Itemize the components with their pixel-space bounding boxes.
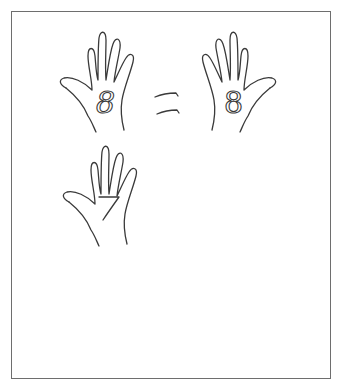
number-right-row-1: 8 [224,85,243,120]
equals-symbol-row-1 [155,93,179,114]
worksheet-drawing: 8 8 [0,0,344,389]
row-2 [63,146,136,246]
hand-left-row-2 [63,146,136,246]
number-left-row-2 [99,197,119,220]
row-1: 8 8 [60,32,275,132]
number-left-row-1: 8 [96,85,115,120]
